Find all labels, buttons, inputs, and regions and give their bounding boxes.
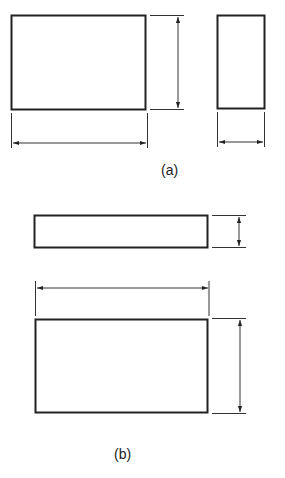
- rectangle-b-top: [35, 216, 208, 248]
- rectangle-b-front: [36, 320, 208, 413]
- part-b-top-view: [35, 216, 247, 248]
- orthographic-dimension-diagram: [0, 0, 285, 478]
- part-a-side-view: [218, 16, 265, 148]
- part-b-front-view: [36, 281, 247, 414]
- rectangle-a-side: [218, 16, 265, 109]
- part-b-label: (b): [114, 446, 131, 462]
- rectangle-a-front: [12, 16, 146, 110]
- part-a-label: (a): [161, 162, 178, 178]
- part-a-front-view: [12, 16, 185, 149]
